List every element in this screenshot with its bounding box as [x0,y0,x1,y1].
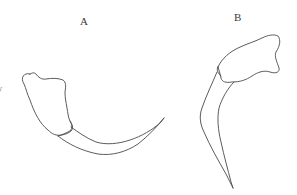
specimen-b-tail-right [218,82,234,188]
specimen-b-drawing [200,35,279,188]
specimen-a-drawing [22,73,164,155]
specimen-drawings [0,0,297,195]
specimen-b-head-outline [218,35,280,82]
specimen-a-tail-lower [58,118,164,155]
specimen-a-head-notch [58,121,72,136]
figure: . y A B [0,0,297,195]
specimen-a-tail-upper [71,118,164,144]
specimen-a-head-outline [22,73,72,135]
